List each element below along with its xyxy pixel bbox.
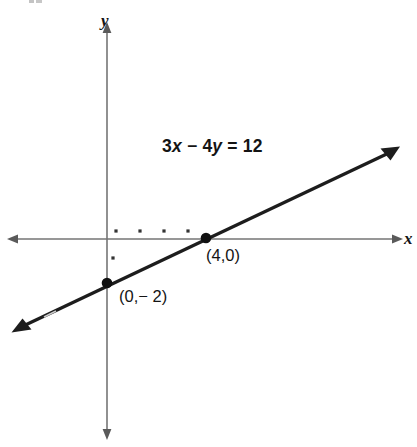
graph-figure: y x 3x − 4y = 12 (4,0) (0,− 2) [0, 0, 417, 447]
coordinate-plane-svg [0, 0, 417, 447]
equation-equals-12: = 12 [222, 136, 262, 156]
tick-dot [114, 229, 117, 232]
equation-minus-4: − 4 [182, 136, 212, 156]
tick-dot [111, 256, 114, 259]
y-axis-label: y [101, 12, 109, 29]
point-y-intercept [102, 278, 113, 289]
equation-coef-3: 3 [162, 136, 172, 156]
tick-dot [162, 229, 165, 232]
tick-dot [138, 229, 141, 232]
point-x-intercept [201, 233, 212, 244]
equation-var-y: y [212, 136, 222, 156]
equation-var-x: x [172, 136, 182, 156]
x-axis-label: x [404, 230, 413, 247]
tick-dots [111, 229, 189, 259]
point-label-x-intercept: (4,0) [206, 247, 240, 264]
line-arrow-upper-right [381, 147, 401, 161]
y-axis [103, 22, 112, 440]
equation-annotation: 3x − 4y = 12 [162, 138, 263, 156]
tick-dot [186, 229, 189, 232]
point-label-y-intercept: (0,− 2) [119, 288, 167, 305]
line-arrow-lower-left [12, 319, 32, 333]
